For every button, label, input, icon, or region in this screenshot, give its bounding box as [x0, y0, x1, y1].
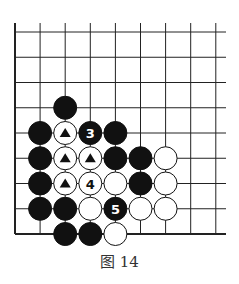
white-stone [154, 172, 177, 195]
move-number: 4 [86, 177, 95, 192]
black-stone [104, 147, 127, 170]
black-stone [29, 197, 52, 220]
white-stone [54, 122, 77, 145]
white-stone [104, 172, 127, 195]
white-stone [154, 147, 177, 170]
black-stone [129, 147, 152, 170]
figure-caption: 图 14 [0, 250, 239, 271]
black-stone [29, 122, 52, 145]
white-stone [54, 172, 77, 195]
white-stone [79, 147, 102, 170]
black-stone [29, 147, 52, 170]
white-stone [129, 197, 152, 220]
black-stone [29, 172, 52, 195]
black-stone [129, 172, 152, 195]
white-stone [79, 197, 102, 220]
black-stone [104, 122, 127, 145]
black-stone [54, 197, 77, 220]
stones-layer: 345 [29, 96, 178, 245]
black-stone [54, 223, 77, 246]
black-stone: 5 [104, 197, 127, 220]
white-stone: 4 [79, 172, 102, 195]
go-board: 345 [0, 0, 239, 250]
move-number: 3 [86, 126, 95, 141]
white-stone [104, 223, 127, 246]
move-number: 5 [111, 202, 120, 217]
white-stone [154, 197, 177, 220]
black-stone: 3 [79, 122, 102, 145]
white-stone [54, 147, 77, 170]
black-stone [54, 96, 77, 119]
black-stone [79, 223, 102, 246]
